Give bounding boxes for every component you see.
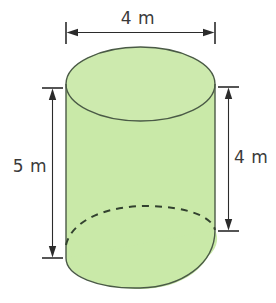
dimension-label-left: 5 m	[8, 158, 52, 175]
dimension-right-top-arrowhead	[225, 88, 232, 100]
cylinder-top-face	[66, 47, 215, 121]
dimension-top-right-arrowhead	[203, 29, 215, 37]
cylinder-diagram: 4 m 5 m 4 m	[0, 0, 276, 303]
dimension-left-top-arrowhead	[49, 89, 56, 101]
dimension-left-bottom-arrowhead	[49, 246, 56, 258]
dimension-right-bottom-arrowhead	[225, 219, 232, 231]
dimension-label-right: 4 m	[234, 149, 276, 166]
dimension-label-top: 4 m	[0, 10, 276, 27]
dimension-top-left-arrowhead	[67, 29, 79, 37]
